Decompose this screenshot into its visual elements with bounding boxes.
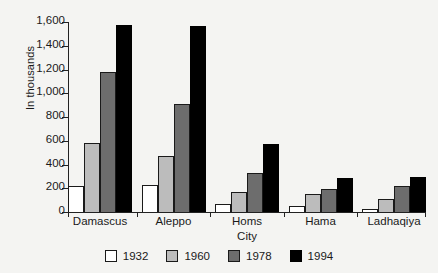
- y-tick-label: 0: [59, 204, 65, 216]
- bar: [116, 25, 132, 212]
- x-tick-label: Aleppo: [156, 215, 192, 227]
- y-tick-label: 1,000: [36, 85, 65, 97]
- x-axis-line: [68, 212, 426, 213]
- bar: [394, 186, 410, 212]
- bar-group: [289, 22, 353, 212]
- plot-area: 1,6001,4001,2001,0008006004002000: [68, 22, 426, 212]
- chart-legend: 1932196019781994: [0, 250, 438, 262]
- x-axis-title: City: [68, 230, 426, 242]
- bar: [84, 143, 100, 212]
- y-tick-label: 1,400: [36, 38, 65, 50]
- y-tick-label: 1,200: [36, 62, 65, 74]
- bar-chart: In thousands 1,6001,4001,2001,0008006004…: [0, 0, 438, 273]
- bar: [337, 178, 353, 212]
- legend-label: 1978: [246, 250, 272, 262]
- legend-item[interactable]: 1932: [105, 250, 149, 262]
- bar: [174, 104, 190, 212]
- bar: [305, 194, 321, 212]
- bar: [321, 189, 337, 212]
- bar-group: [215, 22, 279, 212]
- bar: [100, 72, 116, 212]
- bar-group: [142, 22, 206, 212]
- legend-item[interactable]: 1978: [228, 250, 272, 262]
- bar: [190, 26, 206, 212]
- bar: [410, 177, 426, 212]
- y-tick-label: 400: [46, 157, 65, 169]
- bar: [68, 186, 84, 212]
- y-tick-label: 200: [46, 180, 65, 192]
- bar-group: [362, 22, 426, 212]
- x-tick-label: Ladhaqiya: [367, 215, 420, 227]
- x-axis-labels: DamascusAleppoHomsHamaLadhaqiya: [68, 215, 426, 231]
- bar: [362, 209, 378, 212]
- legend-swatch-icon: [290, 250, 302, 262]
- bar: [247, 173, 263, 212]
- legend-label: 1960: [184, 250, 210, 262]
- bar-group: [68, 22, 132, 212]
- y-axis-title: In thousands: [24, 8, 36, 148]
- bar: [215, 204, 231, 212]
- bar: [231, 192, 247, 212]
- legend-item[interactable]: 1994: [290, 250, 334, 262]
- y-tick-label: 600: [46, 133, 65, 145]
- legend-swatch-icon: [228, 250, 240, 262]
- bar: [263, 144, 279, 212]
- bar: [378, 199, 394, 212]
- bar: [158, 156, 174, 212]
- x-tick-label: Damascus: [73, 215, 127, 227]
- x-tick-label: Homs: [232, 215, 262, 227]
- legend-swatch-icon: [166, 250, 178, 262]
- y-tick-label: 1,600: [36, 14, 65, 26]
- x-tick-label: Hama: [305, 215, 336, 227]
- legend-label: 1994: [308, 250, 334, 262]
- legend-item[interactable]: 1960: [166, 250, 210, 262]
- legend-swatch-icon: [105, 250, 117, 262]
- bar: [289, 206, 305, 212]
- legend-label: 1932: [123, 250, 149, 262]
- y-tick-label: 800: [46, 109, 65, 121]
- bar-groups: [68, 22, 426, 212]
- bar: [142, 185, 158, 212]
